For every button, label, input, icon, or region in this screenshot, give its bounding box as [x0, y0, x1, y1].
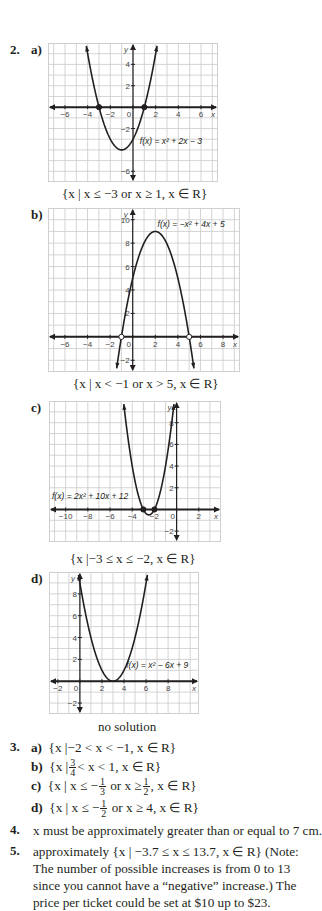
- q3-part-c-post: , x ∈ R}: [151, 778, 197, 793]
- q2-part-a-label: a): [31, 42, 42, 58]
- svg-text:2: 2: [169, 484, 174, 493]
- q3-part-d-post: or x ≥ 4, x ∈ R}: [112, 800, 199, 815]
- q3-part-c-label: c): [31, 778, 41, 793]
- svg-text:8: 8: [125, 239, 130, 248]
- q3-part-b-label: b): [31, 759, 43, 774]
- svg-text:6: 6: [125, 263, 130, 272]
- svg-text:0: 0: [74, 684, 79, 693]
- svg-text:2: 2: [153, 110, 158, 119]
- fraction-1-3: 13: [99, 777, 106, 796]
- svg-text:f(x) = x² − 6x + 9: f(x) = x² − 6x + 9: [126, 660, 188, 670]
- fraction-1-2: 12: [143, 777, 150, 796]
- svg-text:6: 6: [198, 340, 203, 349]
- q3-part-d-label: d): [31, 800, 43, 815]
- svg-text:0: 0: [170, 512, 175, 521]
- svg-text:2: 2: [72, 655, 77, 664]
- svg-text:−10: −10: [59, 512, 73, 521]
- svg-text:−2: −2: [121, 125, 131, 134]
- q3-part-b: b) {x |34< x < 1, x ∈ R}: [31, 758, 161, 777]
- question-5-number: 5.: [10, 843, 20, 859]
- q3-part-b-post: < x < 1, x ∈ R}: [77, 759, 161, 774]
- svg-text:y: y: [70, 574, 76, 583]
- svg-text:−2: −2: [106, 340, 116, 349]
- svg-text:2: 2: [197, 512, 202, 521]
- q2-part-d-answer: no solution: [98, 719, 156, 735]
- q5-line-2: The number of possible increases is from…: [33, 860, 299, 877]
- q3-part-c-mid: or x ≥: [110, 778, 141, 793]
- q3-part-d: d) {x | x ≤ −12 or x ≥ 4, x ∈ R}: [31, 799, 199, 818]
- q2-part-b-label: b): [31, 207, 43, 223]
- q5-line-3: since you cannot have a “negative” incre…: [33, 877, 299, 894]
- svg-text:y: y: [167, 403, 173, 412]
- q2-part-a-answer: {x | x ≤ −3 or x ≥ 1, x ∈ R}: [62, 186, 207, 202]
- q5-line-1: approximately {x | −3.7 ≤ x ≤ 13.7, x ∈ …: [33, 843, 299, 860]
- question-2-number: 2.: [10, 42, 20, 58]
- svg-text:x: x: [232, 340, 238, 349]
- svg-text:−6: −6: [121, 167, 131, 176]
- svg-text:−2: −2: [106, 110, 116, 119]
- fraction-3-4: 34: [69, 758, 76, 777]
- svg-text:8: 8: [72, 590, 77, 599]
- svg-text:8: 8: [166, 684, 171, 693]
- svg-text:4: 4: [122, 684, 127, 693]
- svg-text:6: 6: [199, 110, 204, 119]
- q4-answer: x must be approximately greater than or …: [33, 822, 322, 839]
- svg-text:f(x) = x² + 2x − 3: f(x) = x² + 2x − 3: [140, 136, 202, 146]
- svg-text:−4: −4: [128, 512, 138, 521]
- q5-answer: approximately {x | −3.7 ≤ x ≤ 13.7, x ∈ …: [33, 843, 299, 911]
- graph-b: −6−4−202468−2246810xyf(x) = −x² + 4x + 5: [48, 208, 240, 372]
- svg-text:−2: −2: [68, 699, 78, 708]
- svg-text:4: 4: [126, 60, 131, 69]
- svg-text:8: 8: [221, 340, 226, 349]
- svg-text:−6: −6: [60, 340, 70, 349]
- graph-d: −202468−22468xyf(x) = x² − 6x + 9: [49, 572, 199, 714]
- svg-text:−4: −4: [83, 110, 93, 119]
- q3-part-a-label: a): [31, 740, 42, 755]
- svg-text:−2: −2: [164, 527, 174, 536]
- svg-text:4: 4: [176, 110, 181, 119]
- svg-text:0: 0: [126, 340, 131, 349]
- svg-text:−4: −4: [83, 340, 93, 349]
- svg-text:4: 4: [176, 340, 181, 349]
- q3-part-c: c) {x | x ≤ −13 or x ≥12, x ∈ R}: [31, 777, 197, 796]
- svg-text:6: 6: [72, 612, 77, 621]
- svg-text:−8: −8: [83, 512, 93, 521]
- question-3-number: 3.: [10, 739, 20, 755]
- q2-part-c-label: c): [31, 400, 41, 416]
- graph-a: −6−4−20246−6−224xyf(x) = x² + 2x − 3: [48, 43, 218, 182]
- svg-text:6: 6: [144, 684, 149, 693]
- q2-part-d-label: d): [31, 571, 43, 587]
- fraction-1-2: 12: [100, 799, 107, 818]
- svg-text:4: 4: [169, 462, 174, 471]
- svg-text:0: 0: [127, 110, 132, 119]
- q5-line-4: price per ticket could be set at $10 up …: [33, 894, 299, 911]
- q3-part-a: a) {x |−2 < x < −1, x ∈ R}: [31, 739, 176, 756]
- svg-text:−6: −6: [105, 512, 115, 521]
- graph-c: −10−8−6−4−202−22468xyf(x) = 2x² + 10x + …: [49, 401, 221, 542]
- svg-text:f(x) = −x² + 4x + 5: f(x) = −x² + 4x + 5: [158, 219, 225, 229]
- svg-text:−2: −2: [53, 684, 63, 693]
- svg-text:f(x) = 2x² + 10x + 12: f(x) = 2x² + 10x + 12: [52, 491, 129, 501]
- svg-text:−2: −2: [121, 356, 131, 365]
- question-4-number: 4.: [10, 822, 20, 838]
- svg-text:2: 2: [153, 340, 158, 349]
- svg-text:−6: −6: [60, 110, 70, 119]
- q2-part-b-answer: {x | x < −1 or x > 5, x ∈ R}: [73, 376, 219, 392]
- q3-part-a-answer: {x |−2 < x < −1, x ∈ R}: [49, 740, 177, 755]
- svg-text:2: 2: [126, 82, 131, 91]
- svg-text:2: 2: [100, 684, 105, 693]
- q3-part-c-pre: {x | x ≤ −: [48, 778, 98, 793]
- svg-text:4: 4: [72, 634, 77, 643]
- q3-part-d-pre: {x | x ≤ −: [49, 800, 99, 815]
- q3-part-b-pre: {x |: [49, 759, 68, 774]
- svg-text:y: y: [123, 45, 129, 54]
- q2-part-c-answer: {x |−3 ≤ x ≤ −2, x ∈ R}: [70, 551, 195, 567]
